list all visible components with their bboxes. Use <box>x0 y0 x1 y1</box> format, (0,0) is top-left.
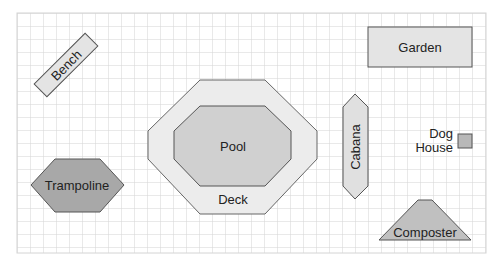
garden-label: Garden <box>398 40 441 55</box>
deck-label: Deck <box>218 192 248 207</box>
trampoline-label: Trampoline <box>45 178 110 193</box>
composter-label: Composter <box>393 225 457 240</box>
dog-house-label-line2: House <box>415 140 453 155</box>
yard-plan: Bench Garden Deck Pool Cabana Dog House … <box>0 0 502 263</box>
dog-house-label-line1: Dog <box>429 126 453 141</box>
pool-label: Pool <box>220 139 246 154</box>
pool[interactable]: Pool <box>174 106 291 186</box>
cabana-label: Cabana <box>348 123 363 169</box>
cabana[interactable]: Cabana <box>343 94 368 199</box>
garden[interactable]: Garden <box>368 27 472 67</box>
